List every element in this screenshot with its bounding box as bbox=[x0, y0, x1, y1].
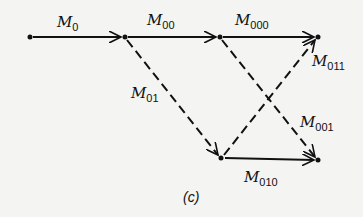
edge-m010 bbox=[225, 158, 314, 160]
edge-m011 bbox=[224, 40, 315, 155]
node-n3 bbox=[316, 35, 321, 40]
node-n2 bbox=[218, 35, 223, 40]
node-n1 bbox=[123, 35, 128, 40]
label-m000: M000 bbox=[234, 11, 269, 31]
node-n0 bbox=[28, 35, 33, 40]
label-m001: M001 bbox=[299, 113, 334, 133]
tree-diagram: M0 M00 M000 M01 M011 M001 M010 (c) bbox=[0, 0, 363, 217]
label-m011: M011 bbox=[311, 52, 345, 72]
label-m0: M0 bbox=[56, 13, 78, 33]
label-m010: M010 bbox=[243, 168, 278, 188]
caption: (c) bbox=[183, 189, 199, 205]
node-n4 bbox=[219, 156, 224, 161]
node-n5 bbox=[316, 158, 321, 163]
label-m01: M01 bbox=[130, 84, 159, 104]
label-m00: M00 bbox=[146, 11, 175, 31]
